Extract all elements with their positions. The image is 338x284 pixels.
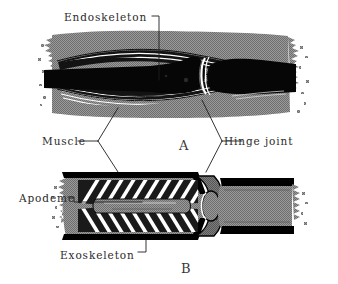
label-endoskeleton: Endoskeleton — [64, 12, 147, 23]
exoskeleton-leader — [138, 240, 146, 252]
panel-b-ragged-right — [292, 184, 308, 225]
label-apodeme: Apodeme — [19, 193, 75, 204]
muscle-leader-to-b — [98, 141, 118, 172]
label-exoskeleton: Exoskeleton — [60, 250, 135, 261]
label-muscle: Muscle — [42, 136, 86, 147]
panel-b-distal-segment — [218, 178, 309, 234]
hinge-leader-to-b — [206, 141, 222, 172]
panel-a-letter: A — [179, 139, 189, 152]
panel-b-letter: B — [181, 262, 191, 275]
label-hinge-joint: Hinge joint — [224, 136, 293, 147]
panel-a-endoskeleton-limb — [38, 31, 309, 118]
panel-b-apodeme — [93, 199, 191, 213]
panel-b-exoskeleton-limb — [51, 172, 308, 240]
